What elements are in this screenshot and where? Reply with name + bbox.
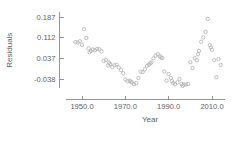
y-tick-label: 0.037 (36, 54, 55, 63)
data-point (165, 79, 168, 82)
data-point (199, 40, 202, 43)
data-point (212, 59, 215, 62)
data-point (195, 59, 198, 62)
data-point (204, 30, 207, 33)
x-tick-label: 2010.0 (200, 102, 223, 111)
data-point (178, 77, 181, 80)
data-point (163, 70, 166, 73)
data-point (137, 76, 140, 79)
x-tick-label: 1990.0 (157, 102, 180, 111)
data-point (85, 36, 88, 39)
data-point (82, 27, 85, 30)
data-point (215, 76, 218, 79)
data-point (100, 50, 103, 53)
y-tick-label: 0.187 (36, 13, 55, 22)
data-point (80, 43, 83, 46)
data-point (167, 72, 170, 75)
data-point (111, 65, 114, 68)
data-point (102, 59, 105, 62)
chart-root: -0.0380.0370.1120.187 1950.01970.01990.0… (0, 0, 236, 142)
data-point (202, 36, 205, 39)
data-point (121, 72, 124, 75)
data-point (176, 81, 179, 84)
data-point (196, 53, 199, 56)
x-axis-title: Year (142, 115, 159, 124)
y-tick-label: 0.112 (37, 33, 55, 42)
scatter-plot: -0.0380.0370.1120.187 1950.01970.01990.0… (0, 0, 236, 142)
data-point (104, 58, 107, 61)
y-axis: -0.0380.0370.1120.187 (34, 12, 64, 88)
data-point (219, 63, 222, 66)
data-point (143, 68, 146, 71)
x-tick-label: 1950.0 (70, 102, 93, 111)
y-tick-label: -0.038 (34, 75, 56, 84)
data-point (186, 82, 189, 85)
data-point (206, 17, 209, 20)
data-point (217, 57, 220, 60)
data-point (189, 60, 192, 63)
x-axis: 1950.01970.01990.02010.0 (66, 96, 225, 112)
y-axis-title: Residuals (5, 33, 14, 68)
data-point (74, 40, 77, 43)
x-tick-label: 1970.0 (114, 102, 137, 111)
data-point (191, 66, 194, 69)
data-points-group (74, 17, 223, 87)
